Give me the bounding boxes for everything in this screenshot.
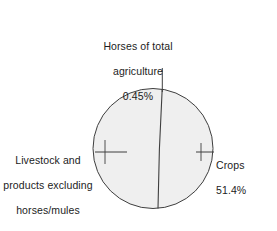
pie-label-crops: Crops 51.4% [216, 146, 276, 209]
pie-label-crops-line1: Crops [216, 159, 276, 172]
pie-label-horses: Horses of total agriculture 0.45% [86, 27, 190, 115]
pie-label-livestock-line3: horses/mules [2, 204, 94, 217]
pie-label-livestock-value: 48.15% [2, 229, 94, 231]
pie-label-livestock-line1: Livestock and [2, 154, 94, 167]
pie-label-horses-value: 0.45% [86, 90, 190, 103]
pie-chart-figure: Horses of total agriculture 0.45% Livest… [0, 0, 277, 230]
pie-label-horses-line2: agriculture [86, 65, 190, 78]
pie-label-livestock: Livestock and products excluding horses/… [2, 141, 94, 230]
pie-label-livestock-line2: products excluding [2, 179, 94, 192]
pie-label-horses-line1: Horses of total [86, 40, 190, 53]
pie-label-crops-value: 51.4% [216, 184, 276, 197]
